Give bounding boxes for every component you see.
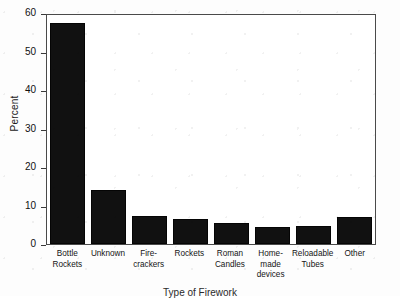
x-axis-category-label: Other xyxy=(334,249,375,281)
y-axis-tick-label: 0 xyxy=(30,238,36,249)
x-axis-category-label-line: Roman xyxy=(211,249,250,260)
y-axis-title: Percent xyxy=(9,84,20,144)
x-axis-category-label: BottleRockets xyxy=(47,249,88,281)
x-axis-category-label: ReloadableTubes xyxy=(291,249,334,281)
bar-slot xyxy=(47,15,88,244)
bar-slot xyxy=(129,15,170,244)
bar[interactable] xyxy=(132,216,167,244)
y-axis-tick-label: 10 xyxy=(25,200,36,211)
bar[interactable] xyxy=(255,227,290,244)
bar-slot xyxy=(293,15,334,244)
bar[interactable] xyxy=(50,23,85,244)
y-axis-tick-label: 40 xyxy=(25,84,36,95)
bar-series xyxy=(47,15,375,244)
x-axis-category-label-line: Tubes xyxy=(292,260,333,271)
x-axis-category-label-line: Rockets xyxy=(170,249,209,260)
x-axis-category-label: Home-madedevices xyxy=(250,249,291,281)
y-axis-tick-label: 20 xyxy=(25,161,36,172)
bar[interactable] xyxy=(337,217,372,244)
x-axis-category-label-line: Unknown xyxy=(89,249,128,260)
x-axis-category-labels: BottleRocketsUnknownFire-crackersRockets… xyxy=(47,249,375,281)
x-axis-title: Type of Firework xyxy=(0,287,400,298)
bar[interactable] xyxy=(173,219,208,244)
y-axis-tick-label: 30 xyxy=(25,123,36,134)
x-axis-category-label-line: devices xyxy=(251,270,290,281)
bar[interactable] xyxy=(214,223,249,244)
y-axis-tick-label: 50 xyxy=(25,46,36,57)
x-axis-category-label-line: made xyxy=(251,260,290,271)
bar-slot xyxy=(334,15,375,244)
x-axis-category-label-line: Bottle xyxy=(48,249,87,260)
y-axis-tick-mark xyxy=(41,245,46,246)
x-axis-category-label-line: Other xyxy=(335,249,374,260)
bar-slot xyxy=(252,15,293,244)
x-axis-category-label-line: Fire- xyxy=(129,249,168,260)
x-axis-category-label-line: Reloadable xyxy=(292,249,333,260)
x-axis-category-label: Rockets xyxy=(169,249,210,281)
x-axis-category-label-line: Candles xyxy=(211,260,250,271)
bar[interactable] xyxy=(91,190,126,244)
x-axis-category-label: RomanCandles xyxy=(210,249,251,281)
x-axis-category-label-line: Home- xyxy=(251,249,290,260)
bar-slot xyxy=(211,15,252,244)
x-axis-category-label-line: Rockets xyxy=(48,260,87,271)
bar-slot xyxy=(170,15,211,244)
bar[interactable] xyxy=(296,226,331,244)
x-axis-category-label: Unknown xyxy=(88,249,129,281)
bar-slot xyxy=(88,15,129,244)
x-axis-category-label: Fire-crackers xyxy=(128,249,169,281)
x-axis-category-label-line: crackers xyxy=(129,260,168,271)
y-axis-tick-label: 60 xyxy=(25,7,36,18)
